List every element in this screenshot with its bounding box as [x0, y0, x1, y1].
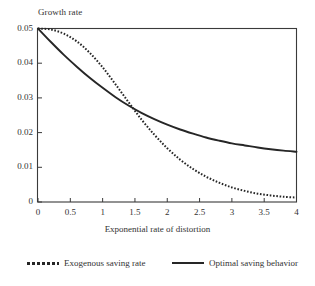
x-tick-label: 4 [282, 207, 312, 217]
x-axis-title: Exponential rate of distortion [0, 224, 315, 234]
chart-figure: Growth rate 00.010.020.030.040.05 00.511… [0, 0, 315, 286]
x-tick-label: 1.5 [120, 207, 150, 217]
y-tick-marks [38, 29, 42, 203]
x-tick-label: 3 [217, 207, 247, 217]
x-tick-label: 3.5 [249, 207, 279, 217]
legend-label: Optimal saving behavior [209, 258, 298, 268]
legend-label: Exogenous saving rate [64, 258, 145, 268]
series-line-exogenous-saving-rate [38, 29, 297, 198]
plot-frame [38, 29, 297, 203]
x-tick-label: 0 [23, 207, 53, 217]
chart-legend: Exogenous saving rate Optimal saving beh… [0, 255, 315, 277]
x-tick-label: 2.5 [185, 207, 215, 217]
x-tick-marks [38, 198, 297, 202]
legend-item-optimal-saving-behavior: Optimal saving behavior [172, 258, 298, 268]
plot-area [0, 0, 315, 286]
legend-swatch-solid-icon [172, 262, 204, 264]
x-tick-label: 2 [152, 207, 182, 217]
x-tick-label: 0.5 [55, 207, 85, 217]
y-tick-label: 0.02 [0, 127, 33, 137]
legend-swatch-dotted-icon [27, 262, 59, 265]
y-tick-label: 0 [0, 196, 33, 206]
y-tick-label: 0.05 [0, 23, 33, 33]
y-tick-label: 0.03 [0, 92, 33, 102]
x-tick-label: 1 [88, 207, 118, 217]
legend-item-exogenous-saving-rate: Exogenous saving rate [27, 258, 145, 268]
y-tick-label: 0.04 [0, 57, 33, 67]
series-line-optimal-saving-behavior [38, 29, 297, 152]
y-tick-label: 0.01 [0, 161, 33, 171]
